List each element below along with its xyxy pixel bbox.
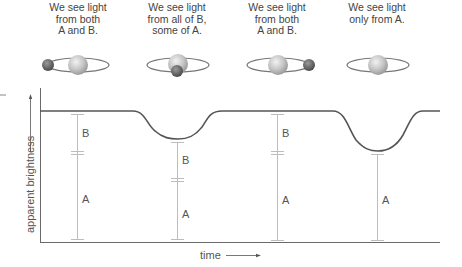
label-b-phase-2: B <box>182 154 189 166</box>
light-curve <box>40 111 440 151</box>
label-a-phase-3: A <box>282 194 290 206</box>
binary-system-phase-3 <box>247 55 315 75</box>
x-axis-label: time <box>200 249 221 261</box>
star-b-icon <box>42 59 54 71</box>
binary-system-phase-2 <box>147 54 209 77</box>
binary-system-phase-1 <box>42 55 109 75</box>
star-b-icon <box>303 59 315 71</box>
label-a-phase-2: A <box>182 208 190 220</box>
label-b-phase-3: B <box>282 127 289 139</box>
binary-system-phase-4 <box>347 55 409 75</box>
light-curve-diagram: apparent brightness time B A B A B A <box>0 0 462 267</box>
star-a-icon <box>68 55 88 75</box>
label-b-phase-1: B <box>82 127 89 139</box>
label-a-phase-1: A <box>82 193 90 205</box>
star-a-icon <box>368 55 388 75</box>
arrow-up-icon <box>29 94 32 99</box>
arrow-right-icon <box>256 254 261 257</box>
y-axis-label: apparent brightness <box>24 135 36 233</box>
star-a-icon <box>268 55 288 75</box>
label-a-phase-4: A <box>382 194 390 206</box>
star-b-icon <box>171 65 183 77</box>
